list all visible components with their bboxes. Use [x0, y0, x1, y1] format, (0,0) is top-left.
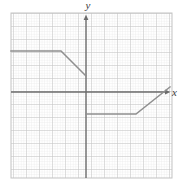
grid-major	[11, 13, 172, 178]
y-axis-label: y	[82, 0, 94, 11]
graph-screenshot: y x	[0, 0, 182, 195]
x-axis-label: x	[172, 86, 182, 98]
coordinate-plane-figure	[0, 0, 182, 195]
